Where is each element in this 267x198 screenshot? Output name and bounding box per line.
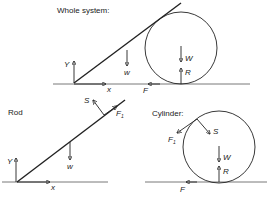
cylinder-title: Cylinder: [152,109,184,118]
whole-system-title: Whole system: [57,6,109,15]
cylinder-panel: Cylinder: S F1 W R F [145,109,267,194]
rod-title: Rod [8,108,23,117]
R-label: R [185,68,191,77]
w-label: w [67,162,74,171]
x-label: x [106,85,112,94]
F1-label: F1 [168,135,176,145]
y-label: Y [64,60,70,69]
whole-system-panel: Whole system: Y x w W R F [53,3,250,95]
S-label: S [213,127,219,136]
F-label: F [180,185,186,194]
x-label: x [50,183,56,192]
F1-label: F1 [116,109,124,119]
W-label: W [223,153,232,162]
F-label: F [143,86,149,95]
S-label: S [84,96,90,105]
contact-force-arrow [197,119,210,134]
w-label: w [124,68,131,77]
contact-force-arrow [93,100,104,115]
rod-panel: Rod Y x w S F1 [2,96,125,192]
free-body-diagrams: Whole system: Y x w W R F Rod Y x w [0,0,267,198]
W-label: W [185,54,194,63]
R-label: R [223,167,229,176]
y-label: Y [7,157,13,166]
